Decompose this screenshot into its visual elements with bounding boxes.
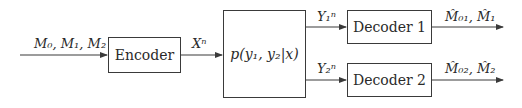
input-messages-label: M₀, M₁, M₂ (34, 37, 106, 50)
y1-label: Y₁ⁿ (317, 10, 336, 23)
decoder2-block: Decoder 2 (347, 63, 432, 97)
channel-label: p(y₁, y₂|x) (230, 46, 298, 62)
channel-p: p (230, 46, 239, 62)
decoder1-output-label: M̂₀₁, M̂₁ (445, 10, 496, 23)
encoder-output-label: Xⁿ (192, 37, 207, 50)
channel-block: p(y₁, y₂|x) (223, 10, 306, 98)
channel-args: (y₁, y₂|x) (239, 46, 298, 62)
block-diagram: Encoder p(y₁, y₂|x) Decoder 1 Decoder 2 … (0, 0, 522, 108)
encoder-block: Encoder (108, 37, 181, 73)
decoder2-label: Decoder 2 (353, 72, 426, 88)
decoder2-output-label: M̂₀₂, M̂₂ (445, 62, 496, 75)
encoder-label: Encoder (115, 47, 174, 63)
y2-label: Y₂ⁿ (317, 62, 336, 75)
decoder1-block: Decoder 1 (347, 10, 432, 44)
decoder1-label: Decoder 1 (353, 19, 426, 35)
